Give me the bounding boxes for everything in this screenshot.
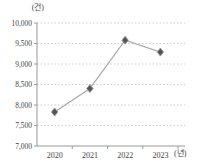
chart-container: (건) (년) 7,0007,5008,0008,5009,0009,50010… <box>0 0 198 168</box>
y-tick-label: 9,000 <box>15 60 32 69</box>
data-point-marker <box>51 108 57 116</box>
x-tick-label: 2023 <box>152 151 168 160</box>
x-tick-label: 2021 <box>82 151 98 160</box>
y-tick-label: 8,500 <box>15 80 32 89</box>
data-line <box>55 40 161 112</box>
y-tick-label: 9,500 <box>15 39 32 48</box>
x-tick-label: 2020 <box>47 151 63 160</box>
data-point-marker <box>157 48 163 56</box>
y-tick-label: 8,000 <box>15 101 32 110</box>
x-axis-unit-label: (년) <box>174 149 198 159</box>
y-tick-label: 7,000 <box>15 142 32 151</box>
y-axis-unit-label: (건) <box>0 3 44 13</box>
y-tick-label: 7,500 <box>15 121 32 130</box>
line-chart: 7,0007,5008,0008,5009,0009,50010,0002020… <box>0 0 198 168</box>
y-tick-label: 10,000 <box>11 19 32 28</box>
x-tick-label: 2022 <box>117 151 133 160</box>
